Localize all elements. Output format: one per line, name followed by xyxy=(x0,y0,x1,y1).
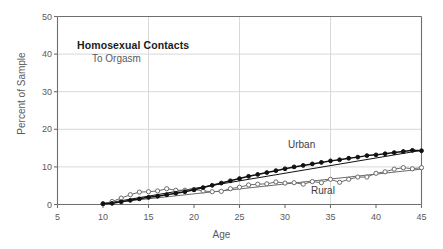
chart-figure: 01020304050 51015202530354045 Percent of… xyxy=(0,0,443,249)
data-point-urban xyxy=(210,183,214,187)
data-point-rural xyxy=(356,175,360,179)
data-point-urban xyxy=(320,160,324,164)
data-point-urban xyxy=(110,201,114,205)
data-point-rural xyxy=(365,175,369,179)
data-point-urban xyxy=(229,179,233,183)
data-point-rural xyxy=(210,190,214,194)
data-point-urban xyxy=(119,200,123,204)
data-point-rural xyxy=(283,181,287,185)
chart-subtitle: To Orgasm xyxy=(92,53,141,64)
series-label-rural: Rural xyxy=(311,185,335,196)
x-tick-label: 20 xyxy=(179,212,209,222)
data-point-rural xyxy=(256,182,260,186)
data-point-urban xyxy=(356,155,360,159)
data-point-rural xyxy=(410,167,414,171)
data-point-urban xyxy=(238,177,242,181)
data-point-rural xyxy=(128,193,132,197)
data-point-urban xyxy=(283,167,287,171)
data-point-urban xyxy=(365,154,369,158)
data-point-rural xyxy=(374,171,378,175)
data-point-rural xyxy=(165,187,169,191)
y-tick-label: 0 xyxy=(24,200,52,210)
data-point-rural xyxy=(137,190,141,194)
data-point-rural xyxy=(347,177,351,181)
data-point-rural xyxy=(274,180,278,184)
data-point-rural xyxy=(310,179,314,183)
x-tick-label: 45 xyxy=(407,212,437,222)
data-point-urban xyxy=(265,171,269,175)
y-tick-label: 30 xyxy=(24,87,52,97)
series-rural-markers xyxy=(101,166,424,206)
data-point-urban xyxy=(292,165,296,169)
x-tick-label: 25 xyxy=(225,212,255,222)
data-point-rural xyxy=(228,187,232,191)
y-tick-label: 20 xyxy=(24,124,52,134)
data-point-rural xyxy=(265,182,269,186)
data-point-urban xyxy=(138,197,142,201)
data-point-urban xyxy=(247,174,251,178)
data-point-urban xyxy=(174,191,178,195)
data-point-urban xyxy=(420,149,424,153)
data-point-urban xyxy=(301,164,305,168)
data-point-rural xyxy=(247,183,251,187)
y-tick-label: 50 xyxy=(24,12,52,22)
data-point-urban xyxy=(411,148,415,152)
y-tick-label: 40 xyxy=(24,49,52,59)
x-tick-label: 30 xyxy=(270,212,300,222)
x-axis-title: Age xyxy=(0,229,443,240)
trend-line-urban xyxy=(103,150,422,203)
data-point-urban xyxy=(165,193,169,197)
data-point-urban xyxy=(101,202,105,206)
data-point-urban xyxy=(338,158,342,162)
data-point-urban xyxy=(374,153,378,157)
x-tick-label: 15 xyxy=(134,212,164,222)
data-point-urban xyxy=(183,190,187,194)
data-point-rural xyxy=(219,189,223,193)
data-point-urban xyxy=(401,150,405,154)
data-point-urban xyxy=(147,195,151,199)
data-point-urban xyxy=(310,162,314,166)
data-point-rural xyxy=(392,167,396,171)
data-point-rural xyxy=(401,166,405,170)
x-tick-label: 35 xyxy=(316,212,346,222)
data-point-rural xyxy=(383,170,387,174)
data-point-urban xyxy=(256,173,260,177)
y-tick-label: 10 xyxy=(24,162,52,172)
data-point-urban xyxy=(347,156,351,160)
data-point-urban xyxy=(156,194,160,198)
data-point-rural xyxy=(419,166,423,170)
data-point-rural xyxy=(292,181,296,185)
series-label-urban: Urban xyxy=(288,139,315,150)
data-point-urban xyxy=(392,151,396,155)
data-point-urban xyxy=(128,198,132,202)
data-point-urban xyxy=(201,186,205,190)
data-point-rural xyxy=(156,189,160,193)
data-point-urban xyxy=(192,188,196,192)
data-point-urban xyxy=(383,152,387,156)
data-point-rural xyxy=(146,190,150,194)
trend-lines xyxy=(103,150,422,203)
data-point-rural xyxy=(328,177,332,181)
data-point-urban xyxy=(219,181,223,185)
x-tick-label: 40 xyxy=(361,212,391,222)
data-point-urban xyxy=(329,159,333,163)
data-point-rural xyxy=(338,180,342,184)
x-tick-label: 10 xyxy=(88,212,118,222)
chart-title: Homosexual Contacts xyxy=(77,39,189,51)
data-point-rural xyxy=(237,185,241,189)
y-axis-title: Percent of Sample xyxy=(16,29,27,159)
x-tick-label: 5 xyxy=(43,212,73,222)
data-point-rural xyxy=(301,182,305,186)
data-point-urban xyxy=(274,169,278,173)
